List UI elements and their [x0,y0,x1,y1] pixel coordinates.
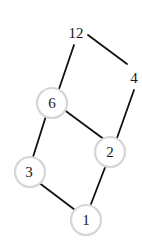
node-12-label: 12 [69,25,84,41]
node-4-label: 4 [130,70,138,86]
edge-2-1 [91,165,106,204]
edge-3-1 [38,182,79,213]
edge-12-6 [59,45,74,89]
node-2-label: 2 [106,144,114,160]
edge-12-4 [88,35,127,64]
hasse-diagram: 12 4 6 2 3 1 [0,0,142,243]
edge-6-2 [63,109,105,140]
node-6-label: 6 [48,95,56,111]
node-1-label: 1 [82,212,90,228]
edge-4-2 [117,90,134,138]
edge-6-3 [33,116,46,157]
node-3-label: 3 [25,164,33,180]
